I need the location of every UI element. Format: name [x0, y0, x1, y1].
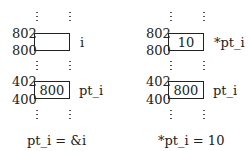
ellipsis-dots — [170, 12, 172, 24]
variable-label: i — [80, 36, 84, 49]
variable-label: *pt_i — [214, 36, 245, 49]
caption: *pt_i = 10 — [158, 134, 224, 147]
ellipsis-dots — [69, 12, 71, 24]
memory-cell-i: 10 — [168, 33, 204, 51]
ellipsis-dots — [203, 12, 205, 24]
variable-label: pt_i — [213, 84, 237, 97]
variable-label: pt_i — [79, 84, 103, 97]
cell-value: 10 — [178, 35, 195, 50]
memory-cell-pt_i: 800 — [168, 81, 204, 99]
ellipsis-dots — [36, 61, 38, 73]
caption: pt_i = &i — [27, 134, 86, 147]
ellipsis-dots — [203, 61, 205, 73]
ellipsis-dots — [36, 110, 38, 122]
memory-cell-i — [34, 33, 70, 51]
ellipsis-dots — [36, 12, 38, 24]
memory-cell-pt_i: 800 — [34, 81, 70, 99]
ellipsis-dots — [170, 61, 172, 73]
ellipsis-dots — [203, 110, 205, 122]
ellipsis-dots — [170, 110, 172, 122]
cell-value: 800 — [40, 83, 65, 98]
cell-value: 800 — [174, 83, 199, 98]
ellipsis-dots — [69, 61, 71, 73]
ellipsis-dots — [69, 110, 71, 122]
